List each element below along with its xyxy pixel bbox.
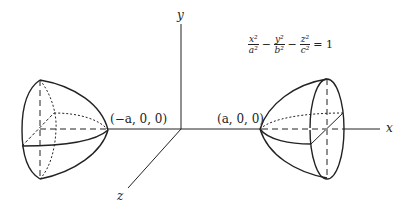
left-vertex-label: (−a, 0, 0) xyxy=(110,112,167,126)
equation-term-z: z² c² xyxy=(300,34,310,55)
y-axis-label: y xyxy=(177,8,184,22)
equation-term-y: y² b² xyxy=(274,34,285,55)
equation-minus: − xyxy=(262,38,271,51)
equation-term-x: x² a² xyxy=(248,34,259,55)
equation-minus: − xyxy=(288,38,297,51)
equation: x² a² − y² b² − z² c² = 1 xyxy=(248,34,333,55)
equation-rhs: = 1 xyxy=(313,38,333,51)
z-axis xyxy=(128,129,181,188)
right-vertex-label: (a, 0, 0) xyxy=(217,112,264,126)
diagram-drawing xyxy=(0,0,409,210)
z-axis-label: z xyxy=(117,189,123,203)
x-axis-label: x xyxy=(386,121,393,135)
hyperboloid-diagram: y x z (−a, 0, 0) (a, 0, 0) x² a² − y² b²… xyxy=(0,0,409,210)
